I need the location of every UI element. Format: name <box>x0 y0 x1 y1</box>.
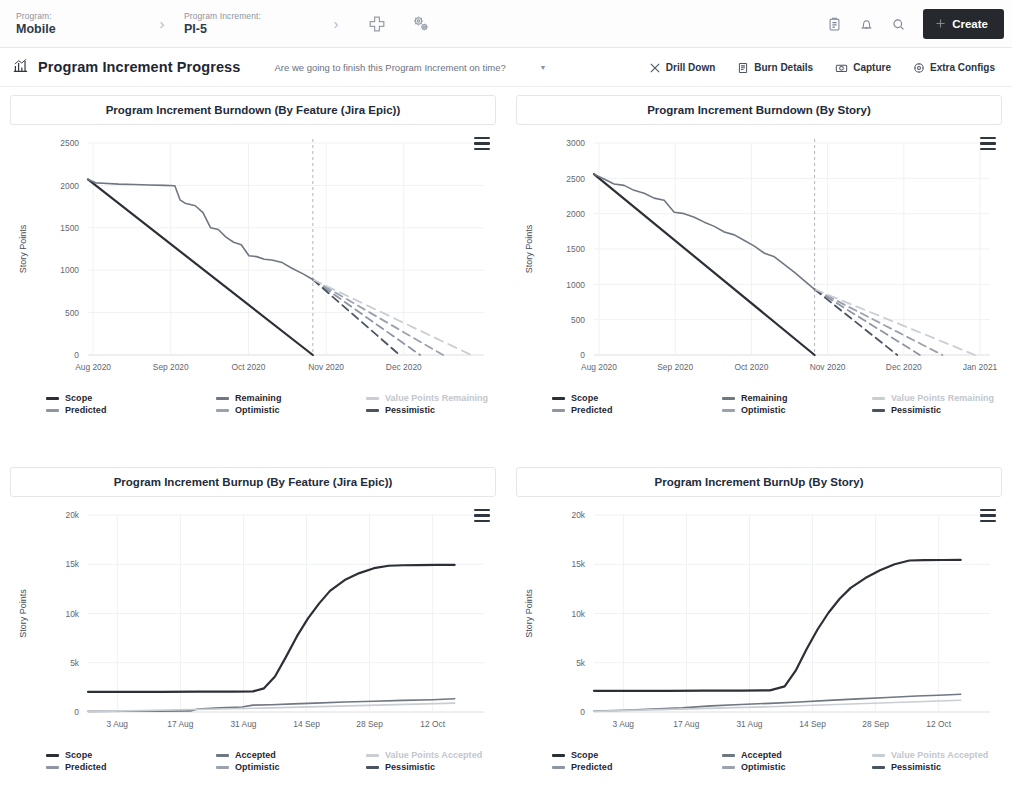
legend-item[interactable]: Remaining <box>216 393 366 403</box>
chart-burndown-story: 050010001500200025003000Aug 2020Sep 2020… <box>516 129 1002 391</box>
legend-item[interactable]: Predicted <box>552 762 722 772</box>
legend-item[interactable]: Value Points Accepted <box>872 750 1012 760</box>
legend-item[interactable]: Optimistic <box>722 405 872 415</box>
chart-svg: 05k10k15k20k3 Aug17 Aug31 Aug14 Sep28 Se… <box>10 501 496 748</box>
legend-item[interactable]: Predicted <box>46 762 216 772</box>
legend-item[interactable]: Value Points Remaining <box>872 393 1012 403</box>
increment-label: Program Increment: <box>184 10 310 22</box>
legend-item[interactable]: Accepted <box>722 750 872 760</box>
legend-swatch <box>722 754 735 757</box>
svg-text:12 Oct: 12 Oct <box>926 719 951 729</box>
panel-header-burndown-story: Program Increment Burndown (By Story) <box>516 95 1002 125</box>
extra-configs-button[interactable]: Extra Configs <box>902 57 1006 79</box>
svg-text:0: 0 <box>74 350 79 360</box>
legend-swatch <box>552 409 565 412</box>
chart-svg: 05001000150020002500Aug 2020Sep 2020Oct … <box>10 129 496 391</box>
legend-label: Optimistic <box>235 405 280 415</box>
legend-item[interactable]: Scope <box>46 393 216 403</box>
capture-label: Capture <box>853 62 891 73</box>
legend-burnup-feature: ScopeAcceptedValue Points AcceptedPredic… <box>10 750 496 772</box>
legend-item[interactable]: Remaining <box>722 393 872 403</box>
legend-swatch <box>216 766 229 769</box>
svg-text:Story Points: Story Points <box>524 224 534 273</box>
legend-swatch <box>722 766 735 769</box>
legend-item[interactable]: Scope <box>552 750 722 760</box>
chart-icon <box>12 57 29 78</box>
drill-down-button[interactable]: Drill Down <box>638 57 726 79</box>
legend-label: Remaining <box>235 393 281 403</box>
dashboard-grid: Program Increment Burndown (By Feature (… <box>0 87 1012 812</box>
svg-text:3000: 3000 <box>566 138 585 148</box>
chart-burnup-story: 05k10k15k20k3 Aug17 Aug31 Aug14 Sep28 Se… <box>516 501 1002 748</box>
panel-burnup-feature: Program Increment Burnup (By Feature (Ji… <box>0 459 506 812</box>
create-button[interactable]: Create <box>923 9 1004 39</box>
burn-details-icon <box>737 62 749 74</box>
legend-item[interactable]: Pessimistic <box>872 762 1012 772</box>
clipboard-icon[interactable] <box>819 9 849 39</box>
legend-item[interactable]: Pessimistic <box>872 405 1012 415</box>
legend-swatch <box>216 754 229 757</box>
extra-configs-label: Extra Configs <box>930 62 995 73</box>
svg-text:15k: 15k <box>65 559 79 569</box>
legend-item[interactable]: Scope <box>552 393 722 403</box>
legend-swatch <box>216 409 229 412</box>
legend-item[interactable]: Optimistic <box>722 762 872 772</box>
svg-text:2500: 2500 <box>566 174 585 184</box>
create-plus-icon <box>935 18 946 31</box>
legend-item[interactable]: Scope <box>46 750 216 760</box>
svg-text:28 Sep: 28 Sep <box>356 719 383 729</box>
svg-text:Sep 2020: Sep 2020 <box>153 362 189 372</box>
svg-text:500: 500 <box>65 308 79 318</box>
panel-title: Program Increment BurnUp (By Story) <box>655 476 864 488</box>
legend-item[interactable]: Predicted <box>552 405 722 415</box>
gears-icon[interactable] <box>406 9 436 39</box>
chart-svg: 050010001500200025003000Aug 2020Sep 2020… <box>516 129 1002 391</box>
svg-text:15k: 15k <box>571 559 585 569</box>
legend-label: Optimistic <box>235 762 280 772</box>
legend-label: Predicted <box>571 405 612 415</box>
legend-swatch <box>872 409 885 412</box>
search-icon[interactable] <box>883 9 913 39</box>
chart-menu-icon[interactable] <box>980 509 996 522</box>
legend-swatch <box>872 397 885 400</box>
legend-label: Scope <box>571 393 598 403</box>
svg-text:3 Aug: 3 Aug <box>613 719 635 729</box>
capture-button[interactable]: Capture <box>824 57 902 79</box>
burn-details-button[interactable]: Burn Details <box>726 57 824 79</box>
burn-details-label: Burn Details <box>754 62 813 73</box>
panel-header-burndown-feature: Program Increment Burndown (By Feature (… <box>10 95 496 125</box>
bell-icon[interactable] <box>851 9 881 39</box>
legend-label: Optimistic <box>741 762 786 772</box>
legend-item[interactable]: Optimistic <box>216 405 366 415</box>
legend-swatch <box>552 766 565 769</box>
panel-burnup-story: Program Increment BurnUp (By Story) 05k1… <box>506 459 1012 812</box>
legend-burndown-story: ScopeRemainingValue Points RemainingPred… <box>516 393 1002 415</box>
legend-item[interactable]: Accepted <box>216 750 366 760</box>
panel-title: Program Increment Burnup (By Feature (Ji… <box>114 476 393 488</box>
legend-burnup-story: ScopeAcceptedValue Points AcceptedPredic… <box>516 750 1002 772</box>
svg-text:Story Points: Story Points <box>18 224 28 273</box>
legend-label: Scope <box>65 393 92 403</box>
breadcrumb-program-increment[interactable]: Program Increment: PI-5 <box>174 10 324 37</box>
breadcrumb-program[interactable]: Program: Mobile <box>0 10 150 37</box>
panel-header-burnup-story: Program Increment BurnUp (By Story) <box>516 467 1002 497</box>
legend-item[interactable]: Optimistic <box>216 762 366 772</box>
chart-menu-icon[interactable] <box>474 509 490 522</box>
capture-icon <box>835 62 848 74</box>
panel-burndown-feature: Program Increment Burndown (By Feature (… <box>0 87 506 459</box>
svg-text:2500: 2500 <box>60 138 79 148</box>
svg-text:1000: 1000 <box>60 265 79 275</box>
legend-swatch <box>366 766 379 769</box>
chart-menu-icon[interactable] <box>980 137 996 150</box>
svg-text:1500: 1500 <box>60 223 79 233</box>
chart-menu-icon[interactable] <box>474 137 490 150</box>
svg-text:5k: 5k <box>70 658 80 668</box>
legend-swatch <box>872 766 885 769</box>
plus-icon[interactable] <box>362 9 392 39</box>
legend-label: Remaining <box>741 393 787 403</box>
legend-swatch <box>366 397 379 400</box>
question-dropdown[interactable]: Are we going to finish this Program Incr… <box>270 55 552 79</box>
program-label: Program: <box>16 10 136 22</box>
legend-item[interactable]: Predicted <box>46 405 216 415</box>
drill-down-icon <box>649 62 661 74</box>
